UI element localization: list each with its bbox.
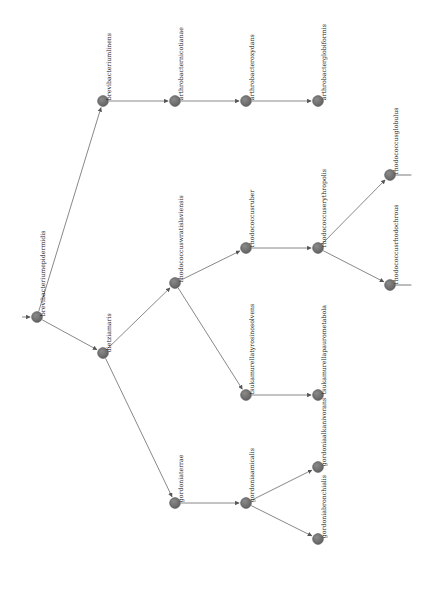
phylogenetic-tree-diagram: brevibacteriumepidermidisbrevibacteriuml…: [0, 0, 433, 589]
node-label-gordoniaterrae: gordoniaterrae: [178, 455, 184, 503]
edge-rhodococcuswratislaviensis-to-rhodococcusruber: [180, 251, 240, 280]
edge-brevibacteriumepidermidis-to-brevibacteriumlinens: [39, 108, 101, 312]
node-label-brevibacteriumlinens: brevibacteriumlinens: [106, 33, 112, 100]
node-layer: [32, 96, 396, 545]
edge-rhodococcuswratislaviensis-to-tsukamurellatyrosinosolvens: [178, 288, 242, 389]
node-label-rhodococcusrhodochrous: rhodococcusrhodochrous: [393, 204, 399, 284]
node-label-arthrobacterglobiformis: arthrobacterglobiformis: [321, 24, 327, 100]
node-label-arthrobacteroxydans: arthrobacteroxydans: [249, 34, 255, 100]
edge-layer: [39, 101, 385, 536]
edge-gordoniaamicalis-to-gordoniabronchialis: [251, 506, 312, 536]
node-label-gordoniaalkanivorans: gordoniaalkanivorans: [321, 398, 327, 466]
node-label-tsukamurellapaurometabola: tsukamurellapaurometabola: [321, 305, 327, 394]
node-label-gordoniabronchialis: gordoniabronchialis: [321, 475, 327, 538]
node-label-rhodococcusruber: rhodococcusruber: [249, 190, 255, 247]
edge-dietziamaris-to-rhodococcuswratislaviensis: [107, 288, 170, 349]
node-label-gordoniaamicalis: gordoniaamicalis: [249, 448, 255, 502]
edge-brevibacteriumepidermidis-to-dietziamaris: [42, 320, 97, 350]
edge-gordoniaamicalis-to-gordoniaalkanivorans: [251, 470, 312, 500]
edge-rhodococcuserythropolis-to-rhodococcusglobulus: [322, 180, 385, 244]
node-label-rhodococcuserythropolis: rhodococcuserythropolis: [321, 169, 327, 247]
edge-dietziamaris-to-gordoniaterrae: [106, 358, 172, 496]
node-label-dietziamaris: dietziamaris: [106, 313, 112, 352]
edge-rhodococcuserythropolis-to-rhodococcusrhodochrous: [323, 251, 384, 282]
node-label-rhodococcuswratislaviensis: rhodococcuswratislaviensis: [178, 195, 184, 282]
node-label-brevibacteriumepidermidis: brevibacteriumepidermidis: [40, 230, 46, 316]
node-label-arthrobacternicotianae: arthrobacternicotianae: [178, 27, 184, 100]
tree-graph-canvas: [0, 0, 433, 589]
node-label-tsukamurellatyrosinosolvens: tsukamurellatyrosinosolvens: [249, 304, 255, 394]
node-label-rhodococcusglobulus: rhodococcusglobulus: [393, 107, 399, 174]
